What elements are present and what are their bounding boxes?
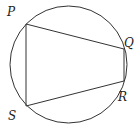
quadrilateral-pqrs <box>26 24 124 106</box>
diagram-canvas: P Q R S <box>0 0 139 129</box>
vertex-label-s: S <box>8 109 16 123</box>
vertex-label-p: P <box>6 5 16 19</box>
vertex-label-q: Q <box>124 36 134 50</box>
vertex-label-r: R <box>117 90 127 104</box>
